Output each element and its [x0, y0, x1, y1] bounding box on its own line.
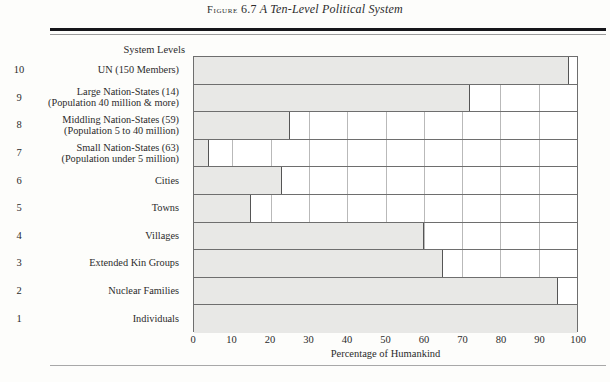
- level-label-main: Small Nation-States (63): [77, 142, 179, 153]
- x-tick-80: 80: [496, 334, 507, 345]
- x-tick-20: 20: [265, 334, 276, 345]
- level-label-3: Extended Kin Groups: [38, 257, 185, 268]
- level-row: 7Small Nation-States (63)(Population und…: [0, 139, 185, 167]
- bar-row: [194, 112, 577, 140]
- x-tick-70: 70: [457, 334, 468, 345]
- level-row: 5Towns: [0, 194, 185, 222]
- system-levels-header: System Levels: [0, 44, 185, 55]
- level-label-main: Large Nation-States (14): [77, 86, 179, 97]
- caption-figure-number: 6.7: [241, 2, 257, 16]
- x-tick-40: 40: [342, 334, 353, 345]
- plot-area: [193, 56, 578, 332]
- bar-level-4: [194, 223, 424, 250]
- level-number-7: 7: [0, 147, 38, 158]
- level-label-main: Cities: [155, 175, 179, 186]
- bar-level-8: [194, 112, 290, 139]
- level-label-main: Individuals: [133, 313, 179, 324]
- x-axis-title: Percentage of Humankind: [193, 348, 578, 359]
- bar-row: [194, 305, 577, 333]
- figure-caption: Figure 6.7 A Ten-Level Political System: [0, 2, 610, 17]
- level-row: 3Extended Kin Groups: [0, 249, 185, 277]
- bar-row: [194, 250, 577, 278]
- level-row: 9Large Nation-States (14)(Population 40 …: [0, 84, 185, 112]
- x-tick-60: 60: [419, 334, 430, 345]
- level-number-5: 5: [0, 202, 38, 213]
- top-thin-rule: [50, 34, 606, 35]
- bar-row: [194, 140, 577, 168]
- level-number-9: 9: [0, 92, 38, 103]
- bar-level-2: [194, 278, 558, 305]
- level-label-6: Cities: [38, 175, 185, 186]
- level-number-6: 6: [0, 175, 38, 186]
- bottom-rule: [50, 365, 606, 366]
- caption-figure-word: Figure: [207, 4, 238, 15]
- level-number-2: 2: [0, 285, 38, 296]
- level-label-column: 10UN (150 Members)9Large Nation-States (…: [0, 56, 185, 332]
- level-number-10: 10: [0, 64, 38, 75]
- bar-row: [194, 195, 577, 223]
- bar-level-7: [194, 140, 209, 167]
- level-label-sub: (Population under 5 million): [38, 153, 179, 164]
- level-label-main: Extended Kin Groups: [89, 257, 179, 268]
- bar-level-1: [194, 305, 577, 333]
- bar-level-3: [194, 250, 443, 277]
- level-number-3: 3: [0, 257, 38, 268]
- caption-figure-title: A Ten-Level Political System: [260, 2, 403, 16]
- x-tick-0: 0: [190, 334, 195, 345]
- level-row: 4Villages: [0, 222, 185, 250]
- level-row: 10UN (150 Members): [0, 56, 185, 84]
- bar-row: [194, 57, 577, 85]
- bar-rows: [194, 57, 577, 331]
- bar-row: [194, 223, 577, 251]
- bar-row: [194, 167, 577, 195]
- figure-container: Figure 6.7 A Ten-Level Political System …: [0, 0, 610, 382]
- x-tick-50: 50: [380, 334, 391, 345]
- x-tick-30: 30: [303, 334, 314, 345]
- bar-row: [194, 85, 577, 113]
- level-label-9: Large Nation-States (14)(Population 40 m…: [38, 86, 185, 108]
- level-label-main: Nuclear Families: [108, 285, 179, 296]
- level-number-1: 1: [0, 313, 38, 324]
- level-label-10: UN (150 Members): [38, 64, 185, 75]
- bar-level-10: [194, 57, 569, 84]
- level-label-8: Middling Nation-States (59)(Population 5…: [38, 114, 185, 136]
- bar-level-5: [194, 195, 251, 222]
- bar-level-9: [194, 85, 470, 112]
- x-tick-90: 90: [534, 334, 545, 345]
- bar-level-6: [194, 167, 282, 194]
- level-label-1: Individuals: [38, 313, 185, 324]
- level-label-main: Towns: [152, 202, 179, 213]
- level-row: 6Cities: [0, 166, 185, 194]
- level-label-sub: (Population 5 to 40 million): [38, 125, 179, 136]
- level-label-2: Nuclear Families: [38, 285, 185, 296]
- x-axis-ticks: 0102030405060708090100: [193, 334, 578, 348]
- level-row: 1Individuals: [0, 304, 185, 332]
- level-label-7: Small Nation-States (63)(Population unde…: [38, 142, 185, 164]
- level-label-main: Middling Nation-States (59): [62, 114, 179, 125]
- level-label-4: Villages: [38, 230, 185, 241]
- level-row: 2Nuclear Families: [0, 277, 185, 305]
- level-label-main: Villages: [145, 230, 179, 241]
- level-label-main: UN (150 Members): [98, 64, 179, 75]
- x-tick-100: 100: [570, 334, 586, 345]
- level-label-sub: (Population 40 million & more): [38, 97, 179, 108]
- level-number-8: 8: [0, 119, 38, 130]
- bar-row: [194, 278, 577, 306]
- top-thick-rule: [50, 28, 606, 31]
- level-number-4: 4: [0, 230, 38, 241]
- x-tick-10: 10: [226, 334, 237, 345]
- level-row: 8Middling Nation-States (59)(Population …: [0, 111, 185, 139]
- level-label-5: Towns: [38, 202, 185, 213]
